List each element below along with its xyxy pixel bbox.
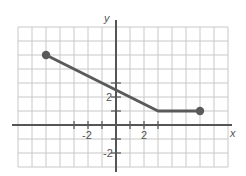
x-axis-label: x — [229, 127, 236, 139]
y-tick-label: -2 — [103, 147, 113, 159]
axes — [12, 20, 232, 172]
graph: xy-222-2 — [0, 0, 246, 176]
y-tick-label: 2 — [106, 91, 112, 103]
endpoint-closed — [196, 107, 204, 115]
grid — [18, 27, 228, 167]
y-axis-label: y — [103, 12, 111, 24]
endpoint-closed — [42, 51, 50, 59]
x-tick-label: 2 — [141, 129, 147, 141]
x-tick-label: -2 — [82, 129, 92, 141]
